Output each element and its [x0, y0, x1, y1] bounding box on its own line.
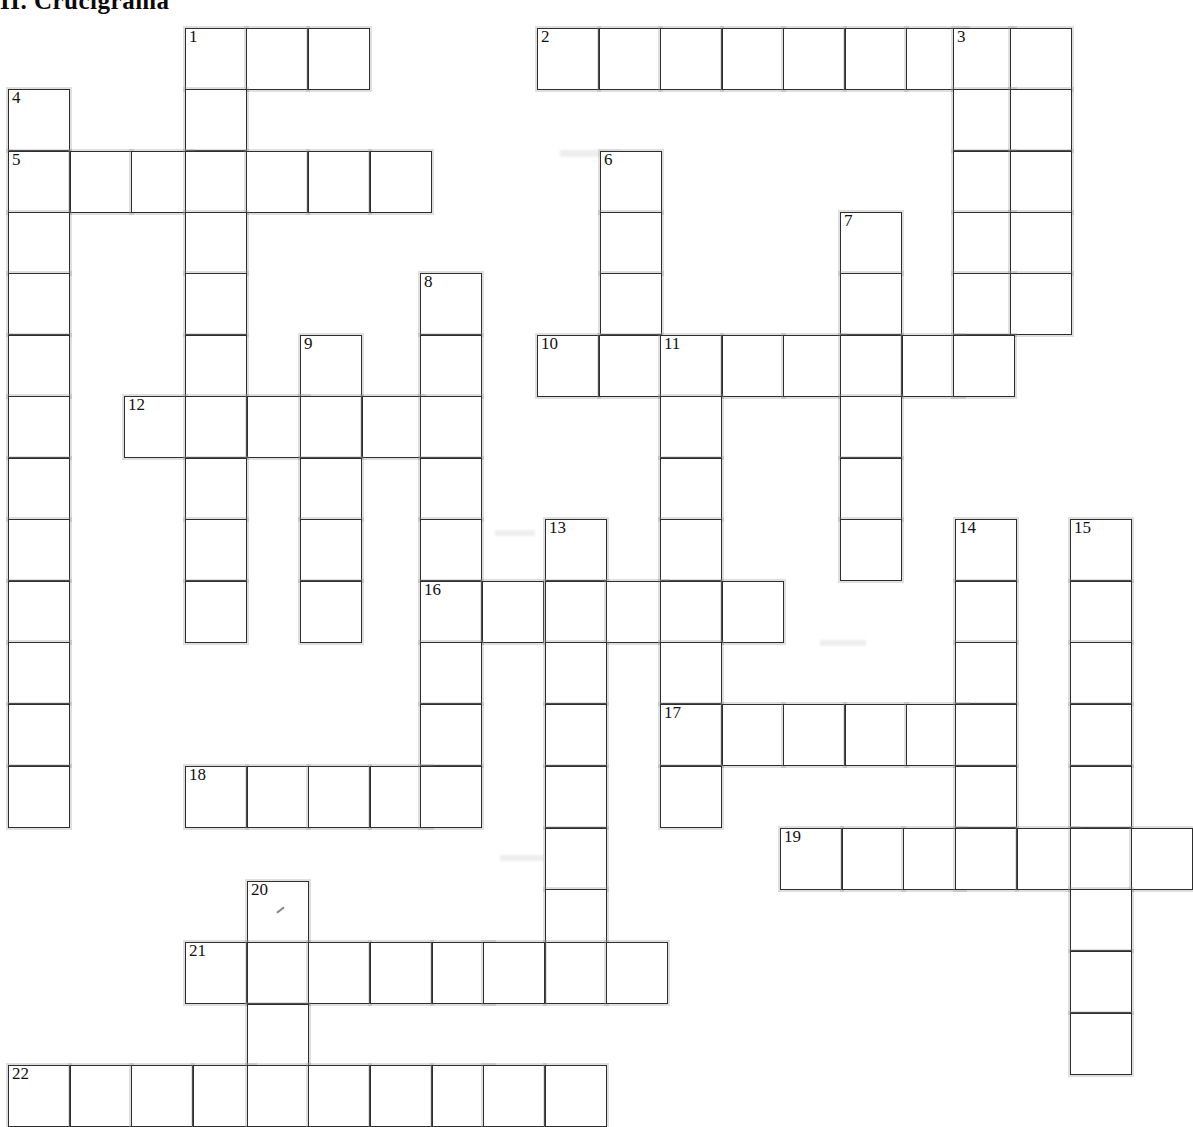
crossword-cell[interactable]	[247, 942, 309, 1004]
crossword-cell[interactable]	[545, 581, 607, 643]
crossword-cell[interactable]	[722, 28, 784, 90]
crossword-cell[interactable]	[8, 766, 70, 828]
crossword-cell[interactable]	[185, 273, 247, 335]
crossword-cell[interactable]	[246, 28, 308, 90]
crossword-cell[interactable]	[660, 396, 722, 458]
crossword-cell-15[interactable]: 15	[1070, 519, 1132, 581]
crossword-cell-10[interactable]: 10	[537, 335, 599, 397]
crossword-cell[interactable]	[599, 335, 661, 397]
crossword-cell[interactable]	[483, 1065, 545, 1127]
crossword-cell[interactable]	[8, 642, 70, 704]
crossword-cell[interactable]	[308, 151, 370, 213]
crossword-cell-7[interactable]: 7	[840, 212, 902, 274]
crossword-cell[interactable]	[840, 273, 902, 335]
crossword-cell-4[interactable]: 4	[8, 89, 70, 151]
crossword-cell-1[interactable]: 1	[185, 28, 247, 90]
crossword-cell[interactable]	[953, 89, 1015, 151]
crossword-cell[interactable]	[1070, 704, 1132, 766]
crossword-cell[interactable]	[840, 396, 902, 458]
crossword-cell[interactable]	[185, 396, 247, 458]
crossword-cell[interactable]	[420, 335, 482, 397]
crossword-cell-11[interactable]: 11	[660, 335, 722, 397]
crossword-cell[interactable]	[953, 335, 1015, 397]
crossword-cell[interactable]	[1010, 28, 1072, 90]
crossword-cell[interactable]	[545, 642, 607, 704]
crossword-cell[interactable]	[70, 151, 132, 213]
crossword-cell[interactable]	[185, 458, 247, 520]
crossword-cell[interactable]	[300, 581, 362, 643]
crossword-cell[interactable]	[660, 766, 722, 828]
crossword-cell[interactable]	[8, 581, 70, 643]
crossword-cell[interactable]	[1010, 151, 1072, 213]
crossword-cell[interactable]	[1070, 1013, 1132, 1075]
crossword-cell[interactable]	[545, 1065, 607, 1127]
crossword-cell[interactable]	[8, 396, 70, 458]
crossword-cell-9[interactable]: 9	[300, 335, 362, 397]
crossword-cell[interactable]	[783, 704, 845, 766]
crossword-cell[interactable]	[545, 766, 607, 828]
crossword-cell-8[interactable]: 8	[420, 273, 482, 335]
crossword-cell[interactable]	[660, 28, 722, 90]
crossword-cell[interactable]	[8, 212, 70, 274]
crossword-cell[interactable]	[370, 1065, 432, 1127]
crossword-cell[interactable]	[246, 151, 308, 213]
crossword-cell[interactable]	[8, 273, 70, 335]
crossword-cell[interactable]	[955, 642, 1017, 704]
crossword-cell-12[interactable]: 12	[124, 396, 186, 458]
crossword-cell-17[interactable]: 17	[660, 704, 722, 766]
crossword-cell[interactable]	[845, 704, 907, 766]
crossword-cell[interactable]	[185, 335, 247, 397]
crossword-cell[interactable]	[1070, 766, 1132, 828]
crossword-cell[interactable]	[185, 519, 247, 581]
crossword-cell-18[interactable]: 18	[185, 766, 247, 828]
crossword-cell[interactable]	[955, 704, 1017, 766]
crossword-cell[interactable]	[420, 519, 482, 581]
crossword-cell[interactable]	[300, 458, 362, 520]
crossword-cell[interactable]	[1070, 951, 1132, 1013]
crossword-cell-20[interactable]: 20	[247, 881, 309, 943]
crossword-cell[interactable]	[953, 273, 1015, 335]
crossword-cell[interactable]	[955, 581, 1017, 643]
crossword-cell[interactable]	[1070, 828, 1132, 890]
crossword-cell[interactable]	[953, 151, 1015, 213]
crossword-cell[interactable]	[131, 151, 193, 213]
crossword-cell[interactable]	[845, 28, 907, 90]
crossword-cell[interactable]	[600, 273, 662, 335]
crossword-cell[interactable]	[8, 519, 70, 581]
crossword-cell[interactable]	[131, 1065, 193, 1127]
crossword-cell[interactable]	[247, 1004, 309, 1066]
crossword-cell[interactable]	[308, 766, 370, 828]
crossword-cell[interactable]	[420, 642, 482, 704]
crossword-cell[interactable]	[842, 828, 904, 890]
crossword-cell[interactable]	[370, 942, 432, 1004]
crossword-cell[interactable]	[1010, 273, 1072, 335]
crossword-cell[interactable]	[600, 212, 662, 274]
crossword-cell-16[interactable]: 16	[420, 581, 482, 643]
crossword-cell[interactable]	[660, 519, 722, 581]
crossword-cell[interactable]	[370, 151, 432, 213]
crossword-cell[interactable]	[185, 151, 247, 213]
crossword-cell-14[interactable]: 14	[955, 519, 1017, 581]
crossword-cell[interactable]	[660, 581, 722, 643]
crossword-cell[interactable]	[247, 1065, 309, 1127]
crossword-cell[interactable]	[1070, 581, 1132, 643]
crossword-cell[interactable]	[1010, 212, 1072, 274]
crossword-cell[interactable]	[1010, 89, 1072, 151]
crossword-cell[interactable]	[722, 335, 784, 397]
crossword-cell[interactable]	[840, 519, 902, 581]
crossword-cell[interactable]	[247, 766, 309, 828]
crossword-cell-13[interactable]: 13	[545, 519, 607, 581]
crossword-cell[interactable]	[70, 1065, 132, 1127]
crossword-cell[interactable]	[308, 28, 370, 90]
crossword-cell[interactable]	[840, 335, 902, 397]
crossword-cell[interactable]	[483, 942, 545, 1004]
crossword-cell[interactable]	[599, 28, 661, 90]
crossword-cell[interactable]	[185, 212, 247, 274]
crossword-cell[interactable]	[420, 396, 482, 458]
crossword-cell[interactable]	[783, 335, 845, 397]
crossword-cell-3[interactable]: 3	[953, 28, 1015, 90]
crossword-cell-6[interactable]: 6	[600, 151, 662, 213]
crossword-cell[interactable]	[660, 458, 722, 520]
crossword-cell[interactable]	[185, 581, 247, 643]
crossword-cell[interactable]	[545, 828, 607, 890]
